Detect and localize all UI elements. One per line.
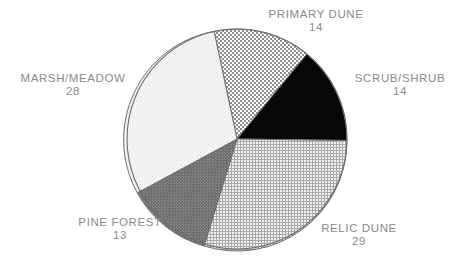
pie-label-marsh-meadow: MARSH/MEADOW 28 <box>8 72 138 98</box>
pie-label-marsh-meadow-name: MARSH/MEADOW <box>8 72 138 85</box>
pie-label-pine-forest-value: 13 <box>58 229 182 242</box>
pie-label-relic-dune-name: RELIC DUNE <box>300 222 418 235</box>
pie-label-scrub-shrub-name: SCRUB/SHRUB <box>338 72 462 85</box>
pie-label-relic-dune-value: 29 <box>300 235 418 248</box>
pie-label-marsh-meadow-value: 28 <box>8 85 138 98</box>
pie-label-primary-dune: PRIMARY DUNE 14 <box>256 8 376 34</box>
pie-label-primary-dune-name: PRIMARY DUNE <box>256 8 376 21</box>
pie-label-scrub-shrub-value: 14 <box>338 85 462 98</box>
pie-label-primary-dune-value: 14 <box>256 21 376 34</box>
chart-canvas: PRIMARY DUNE 14 SCRUB/SHRUB 14 MARSH/MEA… <box>0 0 468 274</box>
pie-label-pine-forest: PINE FOREST 13 <box>58 216 182 242</box>
pie-label-scrub-shrub: SCRUB/SHRUB 14 <box>338 72 462 98</box>
pie-label-pine-forest-name: PINE FOREST <box>58 216 182 229</box>
pie-label-relic-dune: RELIC DUNE 29 <box>300 222 418 248</box>
